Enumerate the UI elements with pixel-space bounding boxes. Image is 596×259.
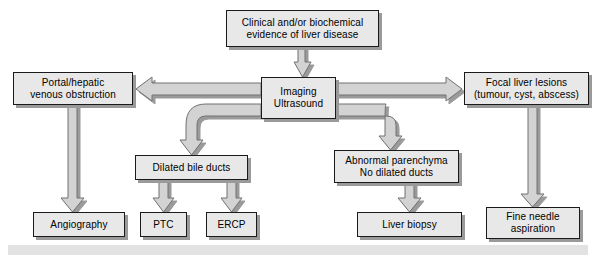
arrow-dilated-to-ptc: [153, 180, 174, 212]
arrow-focal-to-fna: [521, 105, 544, 207]
arrow-dilated-to-ercp: [221, 180, 242, 212]
node-dilated-bile-ducts-label: Dilated bile ducts: [150, 162, 234, 174]
arrow-imaging-to-focal: [336, 77, 462, 101]
node-focal-liver-lesions[interactable]: Focal liver lesions (tumour, cyst, absce…: [464, 72, 589, 105]
node-portal-hepatic-obstruction[interactable]: Portal/hepatic venous obstruction: [13, 72, 133, 105]
arrow-clinical-to-imaging: [294, 47, 311, 77]
node-ercp-label: ERCP: [214, 219, 248, 231]
node-dilated-bile-ducts[interactable]: Dilated bile ducts: [135, 155, 248, 180]
node-portal-hepatic-obstruction-label: Portal/hepatic venous obstruction: [27, 77, 119, 101]
node-ptc-label: PTC: [150, 219, 176, 231]
arrow-abnormal-to-biopsy: [398, 183, 421, 212]
node-imaging-ultrasound-label: Imaging Ultrasound: [271, 86, 326, 110]
node-liver-biopsy[interactable]: Liver biopsy: [357, 212, 462, 237]
node-abnormal-parenchyma[interactable]: Abnormal parenchyma No dilated ducts: [334, 150, 459, 183]
node-focal-liver-lesions-label: Focal liver lesions (tumour, cyst, absce…: [471, 77, 582, 101]
node-clinical-evidence[interactable]: Clinical and/or biochemical evidence of …: [226, 10, 379, 47]
arrow-imaging-to-abnormal: [336, 104, 402, 150]
node-clinical-evidence-label: Clinical and/or biochemical evidence of …: [239, 17, 367, 41]
arrow-portal-to-angiography: [61, 105, 84, 212]
node-angiography[interactable]: Angiography: [33, 212, 125, 237]
node-imaging-ultrasound[interactable]: Imaging Ultrasound: [261, 77, 336, 119]
arrow-imaging-to-portal: [136, 77, 261, 101]
node-liver-biopsy-label: Liver biopsy: [379, 219, 440, 231]
node-fine-needle-aspiration-label: Fine needle aspiration: [503, 211, 562, 235]
arrow-imaging-to-dilated: [180, 104, 261, 155]
node-fine-needle-aspiration[interactable]: Fine needle aspiration: [486, 207, 580, 239]
footer-bar: [8, 245, 588, 255]
node-angiography-label: Angiography: [47, 219, 110, 231]
node-ercp[interactable]: ERCP: [206, 212, 257, 237]
node-ptc[interactable]: PTC: [140, 212, 187, 237]
node-abnormal-parenchyma-label: Abnormal parenchyma No dilated ducts: [342, 155, 451, 179]
flowchart-canvas: Clinical and/or biochemical evidence of …: [0, 0, 596, 259]
